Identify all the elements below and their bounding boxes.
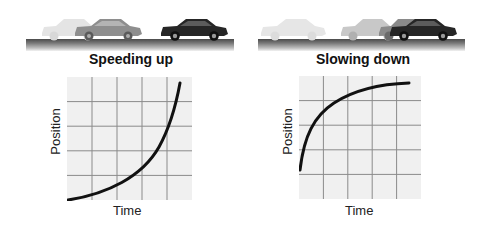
panel-slowing-down: Slowing down Position Time xyxy=(248,0,495,233)
position-time-graph xyxy=(67,77,193,201)
car-mid-icon xyxy=(72,16,144,42)
x-axis-label: Time xyxy=(345,203,373,218)
y-axis-label: Position xyxy=(280,107,295,157)
panel-title: Slowing down xyxy=(316,51,410,67)
car-faded-icon xyxy=(258,16,328,42)
panel-speeding-up: Speeding up Position Time xyxy=(0,0,248,233)
position-time-graph xyxy=(299,76,422,200)
car-dark-icon xyxy=(158,15,230,42)
y-axis-label: Position xyxy=(48,107,63,157)
x-axis-label: Time xyxy=(113,203,141,218)
panel-title: Speeding up xyxy=(89,51,173,67)
car-dark-icon xyxy=(387,15,459,42)
